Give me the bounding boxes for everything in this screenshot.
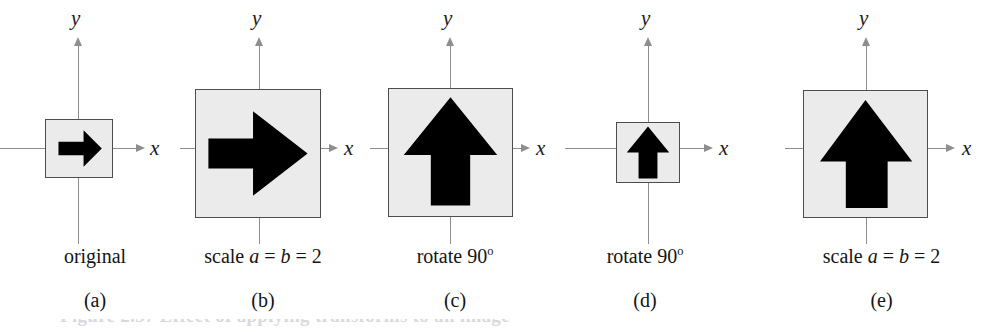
- panel-e-x-axis-arrowhead-icon: [946, 144, 955, 152]
- panel-e-caption-mid: =: [878, 245, 899, 267]
- panel-b-caption-mid: =: [259, 245, 280, 267]
- panel-d-caption-degree: o: [677, 244, 683, 258]
- panel-a-x-axis-arrowhead-icon: [136, 144, 145, 152]
- panel-d-x-axis-label: x: [719, 138, 728, 159]
- panel-b-caption: scale a = b = 2: [168, 246, 358, 266]
- panel-a-sprite-box: [45, 119, 113, 178]
- panel-e-caption-suffix: = 2: [909, 245, 940, 267]
- panel-b-sprite-box: [195, 89, 321, 218]
- panel-e-caption: scale a = b = 2: [770, 246, 993, 266]
- panel-e-sprite-box: [803, 90, 928, 218]
- panel-c-sublabel: (c): [360, 290, 550, 310]
- panel-b: y x scale a = b = 2 (b): [168, 0, 358, 332]
- panel-e: y x scale a = b = 2 (e): [770, 0, 993, 332]
- panel-b-y-axis-arrowhead-icon: [255, 37, 263, 46]
- panel-c-x-axis-label: x: [536, 138, 545, 159]
- panel-b-x-axis-arrowhead-icon: [329, 144, 338, 152]
- panel-c-y-axis-label: y: [443, 8, 452, 29]
- panel-b-x-axis-label: x: [344, 138, 353, 159]
- panel-d-caption: rotate 90o: [550, 246, 740, 266]
- panel-e-y-axis-label: y: [859, 8, 868, 29]
- arrow-up-icon: [804, 91, 927, 217]
- panel-c-y-axis-arrowhead-icon: [446, 37, 454, 46]
- panel-c-sprite-box: [388, 88, 513, 217]
- panel-e-caption-var-a: a: [868, 245, 878, 267]
- panel-d-sublabel: (d): [550, 290, 740, 310]
- arrow-right-icon: [46, 120, 112, 177]
- panel-e-x-axis-label: x: [962, 138, 971, 159]
- panel-a-x-axis-label: x: [150, 138, 159, 159]
- panel-b-caption-var-a: a: [249, 245, 259, 267]
- panel-b-sublabel: (b): [168, 290, 358, 310]
- panel-b-caption-suffix: = 2: [290, 245, 321, 267]
- panel-d-caption-prefix: rotate 90: [607, 245, 678, 267]
- panel-c-x-axis-arrowhead-icon: [521, 144, 530, 152]
- transform-figure: y x original (a) y x scale a = b = 2: [0, 0, 993, 332]
- panel-b-caption-var-b: b: [280, 245, 290, 267]
- arrow-up-icon: [617, 123, 679, 182]
- panel-b-caption-prefix: scale: [204, 245, 249, 267]
- figure-caption-strip: Figure 2.37 Effect of applying transform…: [0, 319, 993, 332]
- panel-a: y x original (a): [0, 0, 190, 332]
- panel-d-y-axis-arrowhead-icon: [644, 37, 652, 46]
- panel-a-sublabel: (a): [0, 290, 190, 310]
- panel-c-caption-prefix: rotate 90: [417, 245, 488, 267]
- panel-c-caption-degree: o: [487, 244, 493, 258]
- panel-e-sublabel: (e): [770, 290, 993, 310]
- panel-d-x-axis-arrowhead-icon: [704, 144, 713, 152]
- panel-c-caption: rotate 90o: [360, 246, 550, 266]
- panel-a-y-axis-arrowhead-icon: [74, 37, 82, 46]
- panel-a-caption: original: [0, 246, 190, 266]
- arrow-up-icon: [389, 89, 512, 216]
- panel-e-y-axis-arrowhead-icon: [862, 37, 870, 46]
- panel-b-y-axis-label: y: [252, 8, 261, 29]
- panel-e-caption-var-b: b: [899, 245, 909, 267]
- panel-e-caption-prefix: scale: [823, 245, 868, 267]
- panel-a-y-axis-label: y: [71, 8, 80, 29]
- panel-c: y x rotate 90o (c): [360, 0, 550, 332]
- arrow-right-icon: [196, 90, 320, 217]
- panel-a-caption-text: original: [64, 245, 126, 267]
- figure-caption-text: Figure 2.37 Effect of applying transform…: [60, 319, 510, 327]
- panel-d-sprite-box: [616, 122, 680, 183]
- panel-d-y-axis-label: y: [641, 8, 650, 29]
- panel-d: y x rotate 90o (d): [550, 0, 740, 332]
